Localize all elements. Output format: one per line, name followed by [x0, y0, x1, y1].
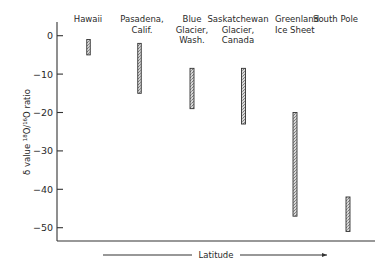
y-tick-label: −30	[33, 145, 53, 156]
y-axis-label: δ value ¹⁸O/¹⁶O ratio	[22, 89, 32, 175]
y-ticks: 0−10−20−30−40−50	[33, 30, 63, 233]
category-label: Hawaii	[74, 14, 102, 24]
range-bar	[346, 197, 350, 232]
y-tick-label: −50	[33, 222, 53, 233]
category-label: Pasadena,Calif.	[120, 14, 164, 35]
category-label: SaskatchewanGlacier,Canada	[207, 14, 268, 45]
range-bar	[87, 40, 91, 55]
category-labels: HawaiiPasadena,Calif.BlueGlacier,Wash.Sa…	[74, 14, 358, 45]
range-bar	[293, 113, 297, 217]
range-bar	[242, 68, 246, 124]
chart: 0−10−20−30−40−50 HawaiiPasadena,Calif.Bl…	[0, 0, 392, 270]
category-label: BlueGlacier,Wash.	[176, 14, 209, 45]
y-tick-label: 0	[47, 30, 53, 41]
y-tick-label: −40	[33, 184, 53, 195]
y-tick-label: −10	[33, 69, 53, 80]
range-bars	[87, 40, 350, 232]
range-bar	[138, 43, 142, 93]
category-label: South Pole	[313, 14, 358, 24]
range-bar	[190, 68, 194, 108]
x-axis-label: Latitude	[199, 250, 234, 260]
y-tick-label: −20	[33, 107, 53, 118]
